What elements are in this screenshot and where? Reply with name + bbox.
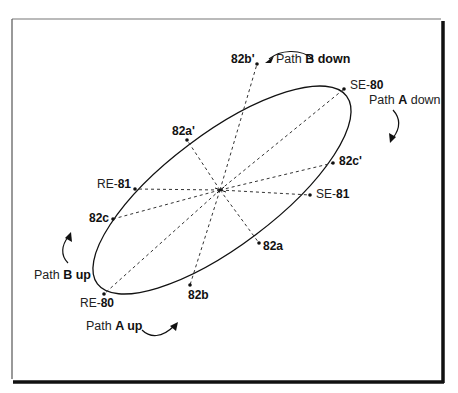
ellipse-path-diagram: SE-8082b'82a'RE-8182cRE-8082b82aSE-8182c… <box>0 0 458 393</box>
spoke-line <box>135 189 220 190</box>
point-dot <box>342 87 346 91</box>
spoke-line <box>220 89 344 190</box>
label-path-a-up: Path A up <box>86 320 143 333</box>
point-label: SE-80 <box>350 79 383 91</box>
spoke-line <box>187 140 220 190</box>
point-label: 82a <box>263 240 283 252</box>
path-a-up-arrow-icon <box>142 326 174 336</box>
point-dot <box>111 217 115 221</box>
point-dot <box>257 241 261 245</box>
point-label: 82b' <box>231 53 255 65</box>
point-label: RE-80 <box>80 297 114 309</box>
label-path-b-up: Path B up <box>34 269 91 282</box>
dashed-spokes <box>104 64 344 294</box>
point-dot <box>188 283 192 287</box>
point-dot <box>255 62 259 66</box>
point-markers <box>102 62 346 296</box>
point-dot <box>133 187 137 191</box>
point-dot <box>185 138 189 142</box>
point-label: 82c' <box>339 155 362 167</box>
point-label: RE-81 <box>97 178 131 190</box>
point-label: 82a' <box>172 125 195 137</box>
point-label: SE-81 <box>316 188 349 200</box>
point-label: 82c <box>89 212 109 224</box>
spoke-line <box>220 190 310 195</box>
path-a-down-arrow-icon <box>393 110 399 138</box>
spoke-line <box>113 190 220 219</box>
point-dot <box>308 193 312 197</box>
point-label: 82b <box>188 289 209 301</box>
spoke-line <box>220 163 333 190</box>
spoke-line <box>190 190 220 285</box>
spoke-line <box>220 64 257 190</box>
label-path-b-down: Path B down <box>276 53 350 66</box>
label-path-a-down: Path A down <box>369 94 441 107</box>
path-b-up-arrow-icon <box>63 237 68 263</box>
diagram-canvas <box>0 0 458 393</box>
spoke-line <box>220 190 259 243</box>
point-dot <box>331 161 335 165</box>
